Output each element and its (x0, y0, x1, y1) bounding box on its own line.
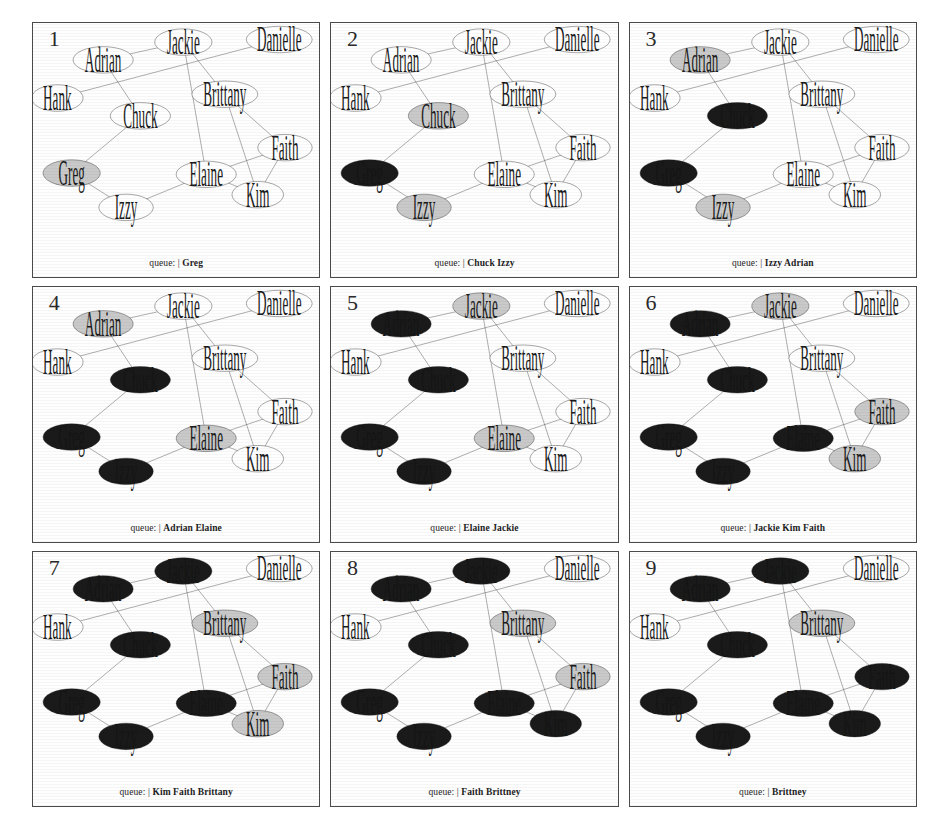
graph-node[interactable]: Chuck (110, 96, 170, 136)
graph-node[interactable]: Elaine (773, 683, 833, 723)
graph-node[interactable]: Chuck (110, 360, 170, 400)
graph-node[interactable]: Greg (341, 682, 398, 722)
graph-node[interactable]: Greg (43, 417, 100, 457)
graph-node[interactable]: Izzy (397, 187, 451, 227)
graph-node[interactable]: Hank (630, 607, 680, 647)
graph-node[interactable]: Greg (43, 153, 100, 193)
graph-node[interactable]: Kim (232, 175, 284, 215)
graph-node[interactable]: Izzy (397, 452, 451, 492)
graph-node[interactable]: Chuck (409, 625, 469, 665)
graph-node[interactable]: Brittany (789, 603, 855, 643)
graph-node[interactable]: Adrian (670, 304, 730, 344)
graph-node[interactable]: Danielle (545, 552, 611, 588)
graph-node[interactable]: Brittany (192, 603, 258, 643)
graph-node[interactable]: Chuck (409, 360, 469, 400)
graph-node[interactable]: Brittany (789, 74, 855, 114)
graph-node[interactable]: Elaine (474, 419, 534, 459)
graph-node[interactable]: Jackie (453, 23, 510, 62)
graph-node[interactable]: Elaine (773, 419, 833, 459)
graph-node[interactable]: Elaine (176, 154, 236, 194)
graph-node[interactable]: Hank (33, 342, 83, 382)
graph-node[interactable]: Chuck (110, 625, 170, 665)
graph-node[interactable]: Izzy (99, 187, 153, 227)
graph-node[interactable]: Faith (258, 128, 312, 168)
graph-node[interactable]: Faith (258, 392, 312, 432)
graph-node[interactable]: Faith (556, 656, 610, 696)
graph-node[interactable]: Adrian (73, 40, 133, 80)
graph-node[interactable]: Brittany (192, 74, 258, 114)
graph-node[interactable]: Kim (530, 703, 582, 743)
graph-node[interactable]: Greg (640, 682, 697, 722)
graph-node[interactable]: Hank (630, 342, 680, 382)
graph-node[interactable]: Kim (829, 703, 881, 743)
graph-node[interactable]: Izzy (397, 716, 451, 756)
graph-node[interactable]: Kim (232, 439, 284, 479)
graph-node[interactable]: Adrian (371, 304, 431, 344)
graph-node[interactable]: Adrian (371, 40, 431, 80)
graph-node[interactable]: Elaine (474, 683, 534, 723)
graph-node[interactable]: Elaine (176, 683, 236, 723)
graph-node[interactable]: Faith (854, 128, 908, 168)
graph-node[interactable]: Kim (530, 175, 582, 215)
graph-node[interactable]: Danielle (843, 23, 909, 59)
graph-node[interactable]: Brittany (192, 339, 258, 379)
graph-node[interactable]: Izzy (696, 452, 750, 492)
graph-node[interactable]: Greg (43, 682, 100, 722)
graph-node[interactable]: Adrian (670, 569, 730, 609)
graph-node[interactable]: Danielle (545, 287, 611, 323)
graph-node[interactable]: Faith (854, 392, 908, 432)
graph-node[interactable]: Danielle (246, 23, 312, 59)
graph-node[interactable]: Elaine (773, 154, 833, 194)
graph-node[interactable]: Danielle (545, 23, 611, 59)
graph-node[interactable]: Faith (854, 656, 908, 696)
graph-node[interactable]: Adrian (670, 40, 730, 80)
graph-node[interactable]: Greg (341, 417, 398, 457)
graph-node[interactable]: Jackie (155, 287, 212, 326)
graph-node[interactable]: Adrian (73, 304, 133, 344)
graph-node[interactable]: Jackie (751, 552, 808, 591)
graph-node[interactable]: Jackie (751, 23, 808, 62)
graph-node[interactable]: Izzy (696, 187, 750, 227)
graph-node[interactable]: Kim (530, 439, 582, 479)
graph-node[interactable]: Danielle (843, 552, 909, 588)
graph-node[interactable]: Hank (331, 342, 381, 382)
graph-node[interactable]: Hank (331, 78, 381, 118)
graph-node[interactable]: Greg (640, 417, 697, 457)
graph-node[interactable]: Jackie (155, 23, 212, 62)
graph-node[interactable]: Kim (829, 175, 881, 215)
graph-node[interactable]: Hank (630, 78, 680, 118)
queue-prefix: queue: (428, 787, 454, 797)
graph-node[interactable]: Izzy (99, 452, 153, 492)
graph-node[interactable]: Chuck (707, 360, 767, 400)
graph-node[interactable]: Jackie (453, 287, 510, 326)
graph-node[interactable]: Faith (556, 392, 610, 432)
graph-node[interactable]: Adrian (73, 569, 133, 609)
graph-node[interactable]: Danielle (246, 552, 312, 588)
graph-node[interactable]: Jackie (155, 552, 212, 591)
graph-node[interactable]: Kim (829, 439, 881, 479)
graph-node[interactable]: Danielle (246, 287, 312, 323)
graph-node[interactable]: Izzy (696, 716, 750, 756)
graph-node[interactable]: Danielle (843, 287, 909, 323)
graph-node[interactable]: Hank (331, 607, 381, 647)
graph-node[interactable]: Brittany (490, 603, 556, 643)
graph-node[interactable]: Elaine (474, 154, 534, 194)
graph-node[interactable]: Izzy (99, 716, 153, 756)
graph-node[interactable]: Chuck (409, 96, 469, 136)
graph-node[interactable]: Greg (341, 153, 398, 193)
graph-node[interactable]: Faith (556, 128, 610, 168)
graph-node[interactable]: Adrian (371, 569, 431, 609)
graph-node[interactable]: Brittany (789, 339, 855, 379)
graph-node[interactable]: Chuck (707, 96, 767, 136)
graph-node[interactable]: Hank (33, 607, 83, 647)
graph-node[interactable]: Hank (33, 78, 83, 118)
graph-node[interactable]: Faith (258, 656, 312, 696)
graph-node[interactable]: Kim (232, 703, 284, 743)
graph-node[interactable]: Brittany (490, 74, 556, 114)
graph-node[interactable]: Jackie (453, 552, 510, 591)
graph-node[interactable]: Elaine (176, 419, 236, 459)
graph-node[interactable]: Chuck (707, 625, 767, 665)
graph-node[interactable]: Brittany (490, 339, 556, 379)
graph-node[interactable]: Greg (640, 153, 697, 193)
graph-node[interactable]: Jackie (751, 287, 808, 326)
